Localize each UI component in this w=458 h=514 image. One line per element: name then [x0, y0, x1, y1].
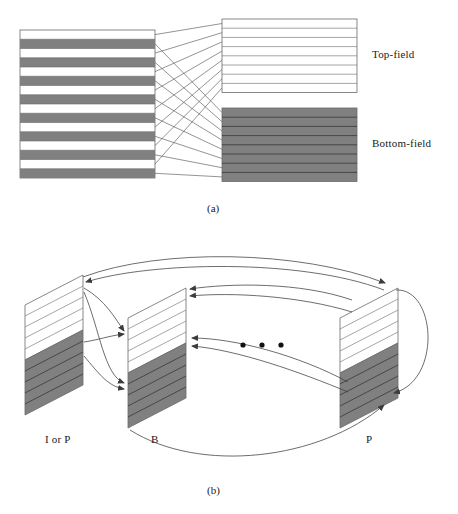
figure-root: Top-field Bottom-field (a) I or P B P (b…	[0, 0, 458, 514]
frame-2-label: B	[151, 433, 159, 445]
top-field-panel	[222, 19, 357, 93]
top-field-label: Top-field	[372, 48, 415, 60]
caption-a: (a)	[207, 202, 219, 214]
interlaced-frame	[20, 30, 155, 178]
bottom-field-panel	[222, 108, 357, 182]
field-connectors	[155, 24, 222, 177]
panel-a-group	[20, 19, 357, 182]
frame-3-label: P	[366, 433, 372, 445]
frame-1-label: I or P	[45, 433, 71, 445]
panel-b-group	[25, 257, 428, 456]
bottom-field-label: Bottom-field	[372, 137, 431, 149]
caption-b: (b)	[207, 484, 220, 496]
